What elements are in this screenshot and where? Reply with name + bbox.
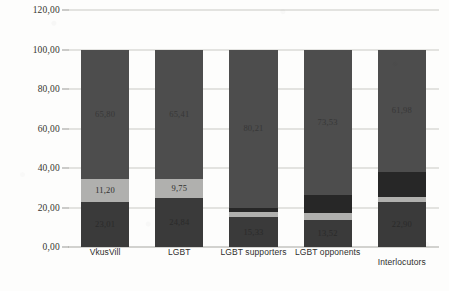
bar-segment[interactable] <box>304 195 352 213</box>
x-axis-category-label: VkusVill <box>70 247 140 291</box>
bar-segment[interactable]: 73,53 <box>304 50 352 195</box>
bar-segment-value-label: 23,01 <box>95 220 115 229</box>
bar-segment-value-label: 80,21 <box>243 124 263 133</box>
stacked-bar-chart: 0,0020,0040,0060,0080,00100,00120,00 65,… <box>0 0 449 291</box>
bar-segment[interactable]: 24,84 <box>155 198 203 247</box>
bar-segment-value-label: 73,53 <box>318 118 338 127</box>
bar-segment[interactable]: 9,75 <box>155 179 203 198</box>
bar-segment-value-label: 24,84 <box>169 218 189 227</box>
bar-segment-value-label: 9,75 <box>171 184 187 193</box>
bar-segment-value-label: 22,90 <box>392 220 412 229</box>
bar-segment-value-label: 65,80 <box>95 110 115 119</box>
stacked-bar[interactable]: 61,982,3022,90 <box>378 50 426 247</box>
stacked-bar[interactable]: 65,419,7524,84 <box>155 50 203 247</box>
bar-segment[interactable]: 15,33 <box>229 217 277 247</box>
y-axis-tick-label: 0,00 <box>4 242 60 252</box>
bar-column[interactable]: 80,212,2015,33 <box>229 10 277 247</box>
y-axis-tick-label: 20,00 <box>4 203 60 213</box>
y-axis-tick-label: 80,00 <box>4 84 60 94</box>
bar-segment[interactable]: 80,21 <box>229 50 277 208</box>
x-axis-category-label: LGBT <box>144 247 214 291</box>
bar-segment[interactable]: 13,52 <box>304 220 352 247</box>
stacked-bar[interactable]: 65,8011,2023,01 <box>81 50 129 248</box>
x-axis: VkusVillLGBTLGBT supportersLGBT opponent… <box>68 247 439 291</box>
bar-segment[interactable]: 11,20 <box>81 179 129 201</box>
bar-segment[interactable]: 3,80 <box>304 213 352 221</box>
stacked-bar[interactable]: 80,212,2015,33 <box>229 50 277 247</box>
x-axis-category-label: LGBT opponents <box>292 247 362 291</box>
bar-segment-value-label: 13,52 <box>318 229 338 238</box>
bar-segment[interactable]: 65,80 <box>81 50 129 180</box>
bar-segment-value-label: 15,33 <box>243 228 263 237</box>
bar-segment[interactable] <box>378 172 426 197</box>
bar-segment-value-label: 65,41 <box>169 110 189 119</box>
x-axis-category-label: Interlocutors <box>367 247 437 291</box>
y-axis-tick-label: 100,00 <box>4 45 60 55</box>
bar-segment[interactable]: 61,98 <box>378 50 426 172</box>
stacked-bar[interactable]: 73,533,8013,52 <box>304 50 352 247</box>
y-axis-tick-label: 120,00 <box>4 5 60 15</box>
y-axis: 0,0020,0040,0060,0080,00100,00120,00 <box>2 0 60 291</box>
bar-column[interactable]: 65,419,7524,84 <box>155 10 203 247</box>
x-axis-category-label: LGBT supporters <box>218 247 288 291</box>
plot-area: 65,8011,2023,0165,419,7524,8480,212,2015… <box>68 10 439 247</box>
y-axis-tick-label: 40,00 <box>4 163 60 173</box>
x-axis-labels: VkusVillLGBTLGBT supportersLGBT opponent… <box>68 247 439 291</box>
bar-segment-value-label: 11,20 <box>95 186 115 195</box>
bar-column[interactable]: 73,533,8013,52 <box>304 10 352 247</box>
y-axis-tick-label: 60,00 <box>4 124 60 134</box>
bar-series-group: 65,8011,2023,0165,419,7524,8480,212,2015… <box>68 10 439 247</box>
bar-segment[interactable]: 65,41 <box>155 50 203 179</box>
bar-segment-value-label: 61,98 <box>392 106 412 115</box>
bar-column[interactable]: 65,8011,2023,01 <box>81 10 129 247</box>
bar-segment[interactable]: 22,90 <box>378 202 426 247</box>
bar-segment[interactable]: 23,01 <box>81 202 129 247</box>
bar-column[interactable]: 61,982,3022,90 <box>378 10 426 247</box>
